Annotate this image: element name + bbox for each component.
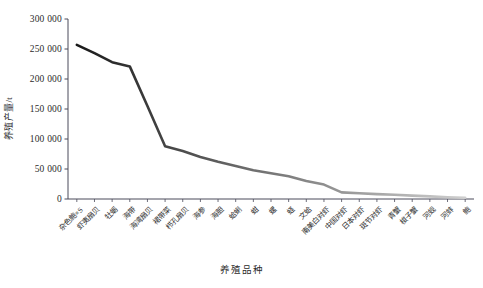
x-axis-tick-labels: 杂色鲍×S虾夷扇贝牡蛎海带海湾扇贝裙带菜栉孔扇贝海参海胆蛤蜊蚶螺蛏文蛤南美白对虾…	[0, 0, 483, 288]
x-axis-title: 养殖品种	[0, 262, 483, 276]
line-chart: 050 000100 000150 000200 000250 000300 0…	[0, 0, 483, 288]
